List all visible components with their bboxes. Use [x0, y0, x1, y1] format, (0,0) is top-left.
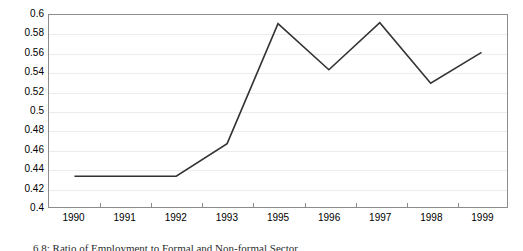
chart-figure: 0.60.580.560.540.520.50.480.460.440.420.… — [0, 0, 523, 251]
y-axis-tick-label: 0.58 — [25, 28, 44, 38]
figure-caption: 6.8: Ratio of Employment to Formal and N… — [33, 242, 503, 251]
y-axis-tick-label: 0.48 — [25, 125, 44, 135]
series-line-chart — [49, 15, 507, 207]
x-axis-tick-label: 1995 — [267, 212, 289, 224]
x-axis-tick-label: 1996 — [318, 212, 340, 224]
x-axis-tick-label: 1992 — [165, 212, 187, 224]
x-axis-tick-mark — [356, 203, 357, 207]
x-axis-tick-label: 1991 — [114, 212, 136, 224]
y-axis-tick-label: 0.44 — [25, 164, 44, 174]
x-axis-tick-mark — [253, 203, 254, 207]
y-axis-tick-label: 0.46 — [25, 145, 44, 155]
y-axis-tick-label: 0.42 — [25, 184, 44, 194]
x-axis-tick-mark — [407, 203, 408, 207]
y-axis-tick-label: 0.4 — [30, 203, 44, 213]
y-axis-tick-label: 0.56 — [25, 48, 44, 58]
series-polyline — [74, 23, 481, 177]
x-axis-tick-mark — [151, 203, 152, 207]
plot-area — [48, 14, 508, 208]
x-axis-tick-mark — [458, 203, 459, 207]
x-axis-tick-label: 1998 — [420, 212, 442, 224]
x-axis-tick-mark — [202, 203, 203, 207]
y-axis-tick-label: 0.6 — [30, 9, 44, 19]
y-axis-tick-label: 0.52 — [25, 87, 44, 97]
x-axis-tick-label: 1999 — [471, 212, 493, 224]
x-axis-tick-label: 1993 — [216, 212, 238, 224]
x-axis-tick-label: 1990 — [62, 212, 84, 224]
y-axis-tick-label: 0.5 — [30, 106, 44, 116]
x-axis-tick-mark — [305, 203, 306, 207]
x-axis: 199019911992199319951996199719981999 — [48, 212, 508, 226]
y-axis-tick-label: 0.54 — [25, 67, 44, 77]
x-axis-tick-mark — [100, 203, 101, 207]
x-axis-tick-label: 1997 — [369, 212, 391, 224]
y-axis: 0.60.580.560.540.520.50.480.460.440.420.… — [0, 14, 44, 208]
